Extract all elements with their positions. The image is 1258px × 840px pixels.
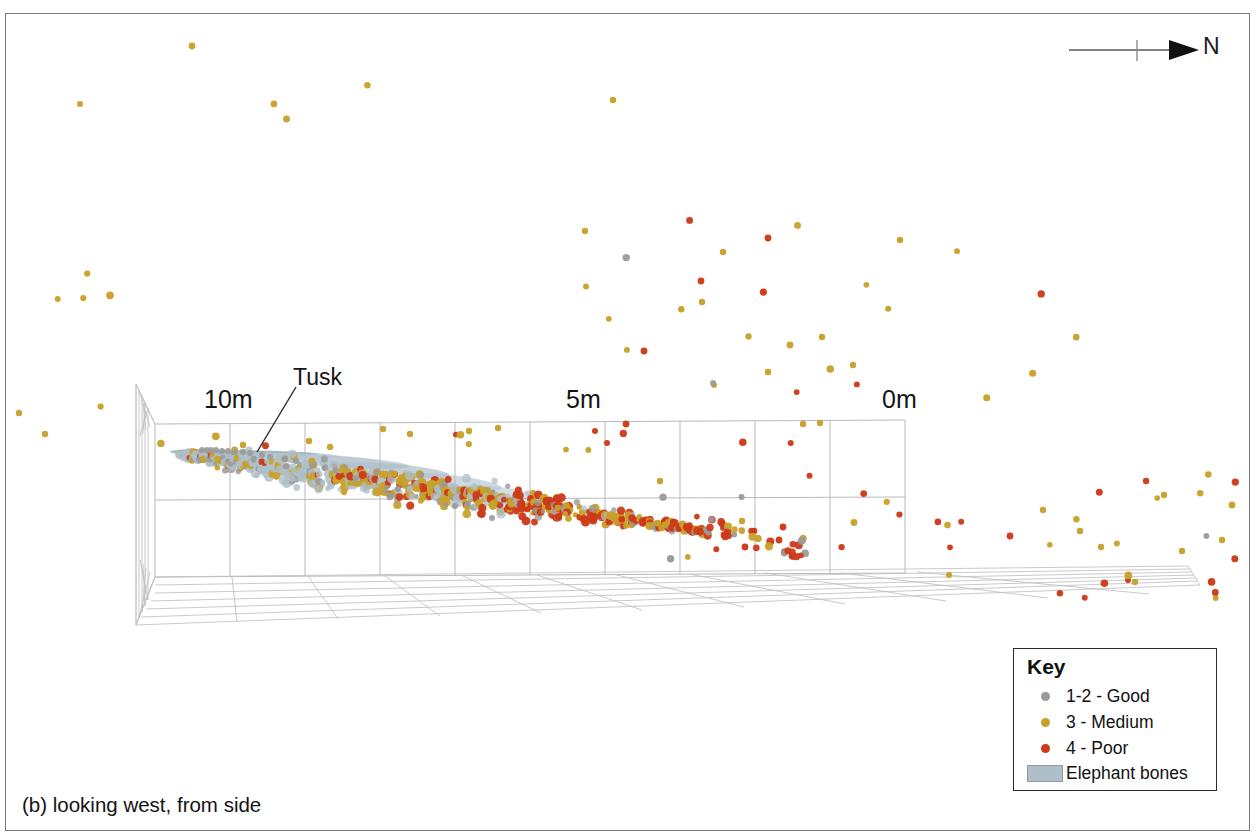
legend-label-medium: 3 - Medium xyxy=(1066,712,1154,733)
legend-item-good: 1-2 - Good xyxy=(1024,684,1210,708)
dot-icon xyxy=(1041,718,1050,727)
legend-title: Key xyxy=(1027,655,1066,679)
tusk-leader-line xyxy=(257,387,296,452)
legend-label-poor: 4 - Poor xyxy=(1066,738,1128,759)
north-label: N xyxy=(1203,33,1220,60)
dot-icon xyxy=(1041,692,1050,701)
legend-swatch-poor xyxy=(1024,744,1066,753)
figure-panel: N 10m 5m 0m Tusk Key 1-2 - Good 3 - Medi… xyxy=(0,0,1258,840)
left-end-panels xyxy=(136,384,155,625)
legend-item-elephant-bones: Elephant bones xyxy=(1024,761,1210,785)
axis-tick-5m: 5m xyxy=(566,385,601,414)
artefact-band xyxy=(175,446,809,560)
axis-tick-0m: 0m xyxy=(882,385,917,414)
legend-item-poor: 4 - Poor xyxy=(1024,736,1210,760)
legend-label-elephant-bones: Elephant bones xyxy=(1066,763,1188,784)
rectangle-icon xyxy=(1027,765,1063,782)
dot-icon xyxy=(1041,744,1050,753)
floor-grid xyxy=(136,566,1200,625)
legend-swatch-medium xyxy=(1024,718,1066,727)
legend-swatch-elephant-bones xyxy=(1024,765,1066,782)
legend-item-medium: 3 - Medium xyxy=(1024,710,1210,734)
tusk-annotation-label: Tusk xyxy=(293,364,342,391)
legend-box: Key 1-2 - Good 3 - Medium 4 - Poor Eleph… xyxy=(1013,648,1217,791)
axis-tick-10m: 10m xyxy=(204,385,253,414)
figure-caption: (b) looking west, from side xyxy=(22,793,261,817)
legend-swatch-good xyxy=(1024,692,1066,701)
legend-label-good: 1-2 - Good xyxy=(1066,686,1150,707)
